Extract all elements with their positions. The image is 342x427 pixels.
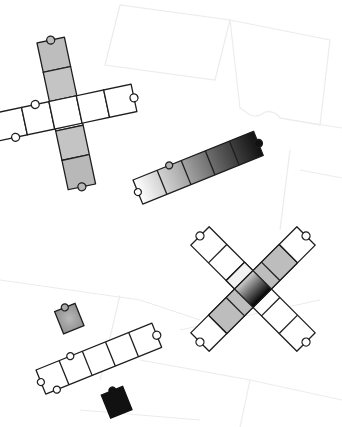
gradient-strip xyxy=(128,127,267,206)
single-black-piece xyxy=(100,383,132,418)
puzzle-canvas xyxy=(0,0,342,427)
white-strip xyxy=(31,318,166,398)
puzzle-illustration xyxy=(0,0,342,427)
x-cross xyxy=(188,224,318,354)
single-gray-piece xyxy=(53,300,84,334)
vertical-bar-cross xyxy=(0,33,142,193)
